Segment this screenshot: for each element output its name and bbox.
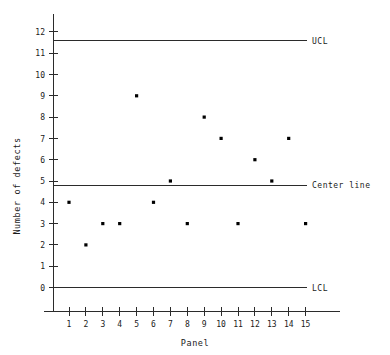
chart-canvas: 0 1 2 3 4 5 6 7 8 9 10 11 12 bbox=[0, 0, 390, 355]
x-tick-label-13: 13 bbox=[267, 320, 277, 329]
data-point bbox=[253, 158, 256, 161]
x-tick-label-7: 7 bbox=[168, 320, 173, 329]
y-tick-label-2: 2 bbox=[40, 241, 45, 250]
data-point bbox=[270, 179, 273, 182]
control-chart: 0 1 2 3 4 5 6 7 8 9 10 11 12 bbox=[0, 0, 390, 355]
x-tick-label-12: 12 bbox=[250, 320, 260, 329]
data-point bbox=[67, 201, 70, 204]
x-tick-label-9: 9 bbox=[202, 320, 207, 329]
y-tick-label-8: 8 bbox=[40, 113, 45, 122]
x-tick-label-1: 1 bbox=[67, 320, 72, 329]
y-axis-ticks: 0 1 2 3 4 5 6 7 8 9 10 11 12 bbox=[35, 28, 58, 293]
x-axis-title: Panel bbox=[181, 338, 210, 348]
y-tick-label-11: 11 bbox=[35, 49, 45, 58]
x-tick-label-11: 11 bbox=[233, 320, 243, 329]
x-tick-label-2: 2 bbox=[83, 320, 88, 329]
y-tick-label-6: 6 bbox=[40, 156, 45, 165]
data-point bbox=[84, 243, 87, 246]
center-line-label: Center line bbox=[312, 181, 370, 190]
x-tick-label-6: 6 bbox=[151, 320, 156, 329]
data-point bbox=[101, 222, 104, 225]
data-points bbox=[67, 94, 307, 246]
y-tick-label-3: 3 bbox=[40, 220, 45, 229]
y-tick-label-1: 1 bbox=[40, 262, 45, 271]
y-tick-label-5: 5 bbox=[40, 177, 45, 186]
y-tick-label-10: 10 bbox=[35, 71, 45, 80]
control-limit-lines: UCL Center line LCL bbox=[54, 37, 371, 293]
x-tick-label-3: 3 bbox=[100, 320, 105, 329]
y-tick-label-7: 7 bbox=[40, 135, 45, 144]
data-point bbox=[186, 222, 189, 225]
y-axis-title: Number of defects bbox=[12, 137, 22, 234]
x-tick-label-14: 14 bbox=[284, 320, 294, 329]
data-point bbox=[287, 137, 290, 140]
y-tick-label-12: 12 bbox=[35, 28, 45, 37]
y-tick-label-0: 0 bbox=[40, 284, 45, 293]
x-tick-label-8: 8 bbox=[185, 320, 190, 329]
data-point bbox=[220, 137, 223, 140]
x-tick-label-4: 4 bbox=[117, 320, 122, 329]
y-tick-label-4: 4 bbox=[40, 198, 45, 207]
x-axis-ticks: 1 2 3 4 5 6 7 8 9 10 11 12 13 bbox=[67, 307, 311, 329]
data-point bbox=[152, 201, 155, 204]
data-point bbox=[135, 94, 138, 97]
data-point bbox=[203, 116, 206, 119]
x-tick-label-15: 15 bbox=[301, 320, 311, 329]
x-tick-label-10: 10 bbox=[216, 320, 226, 329]
data-point bbox=[118, 222, 121, 225]
ucl-label: UCL bbox=[312, 37, 328, 46]
x-tick-label-5: 5 bbox=[134, 320, 139, 329]
data-point bbox=[304, 222, 307, 225]
y-tick-label-9: 9 bbox=[40, 92, 45, 101]
data-point bbox=[169, 179, 172, 182]
lcl-label: LCL bbox=[312, 284, 328, 293]
data-point bbox=[236, 222, 239, 225]
